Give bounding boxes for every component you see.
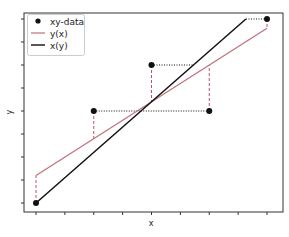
- legend-label-xy: x(y): [50, 41, 68, 51]
- y-axis-label: y: [5, 109, 14, 114]
- data-point: [206, 108, 212, 114]
- x-axis-label: x: [149, 219, 154, 228]
- legend-marker-icon: [35, 18, 40, 23]
- regression-chart: xy-data y(x) x(y) x y: [0, 0, 289, 237]
- data-point: [264, 16, 270, 22]
- data-point: [91, 108, 97, 114]
- legend-label-xy-data: xy-data: [50, 17, 84, 27]
- legend-label-yx: y(x): [50, 29, 68, 39]
- data-point: [33, 200, 39, 206]
- data-point: [149, 62, 155, 68]
- legend: xy-data y(x) x(y): [28, 15, 85, 56]
